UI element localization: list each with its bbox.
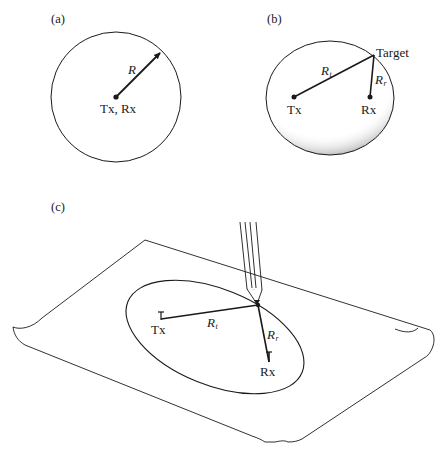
rr-symbol: R [375, 72, 383, 87]
panel-label-c: (c) [51, 201, 65, 214]
rr-symbol-c: R [267, 327, 275, 342]
panel-b-diagram [266, 41, 394, 155]
rx-label-b: Rx [361, 103, 376, 116]
rt-subscript: t [329, 70, 331, 79]
target-label: Target [376, 46, 409, 59]
tx-label-b: Tx [287, 103, 301, 116]
target-point [256, 303, 260, 307]
radius-arrow [116, 53, 160, 97]
panel-label-b: (b) [267, 13, 282, 26]
bistatic-stipple-shading [266, 41, 394, 155]
rt-symbol-c: R [207, 315, 215, 330]
rr-label-b: Rr [375, 73, 387, 88]
tx-rx-label: Tx, Rx [100, 102, 136, 115]
panel-c-diagram [13, 222, 434, 442]
rr-subscript: r [383, 79, 386, 88]
rt-symbol: R [321, 63, 329, 78]
panel-label-a: (a) [51, 13, 65, 26]
tx-label-c: Tx [151, 323, 165, 336]
rt-label-b: Rt [321, 64, 332, 79]
panel-a-diagram [51, 32, 181, 162]
tx-dot [292, 95, 297, 100]
rr-subscript-c: r [275, 334, 278, 343]
rt-subscript-c: t [215, 322, 217, 331]
radius-label: R [128, 63, 136, 76]
rt-label-c: Rt [207, 316, 218, 331]
rx-dot [368, 95, 373, 100]
rr-label-c: Rr [267, 328, 279, 343]
tx-rx-dot [113, 94, 118, 99]
rx-label-c: Rx [260, 365, 275, 378]
paper-sheet [13, 240, 434, 442]
figure-canvas [0, 0, 437, 451]
